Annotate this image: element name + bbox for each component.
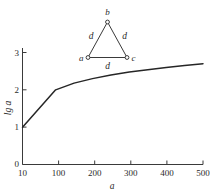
triangle-node-b xyxy=(106,20,110,24)
triangle-node-label-b: b xyxy=(105,7,110,17)
triangle-node-label-c: c xyxy=(132,53,136,63)
triangle-edge-label-ab: d xyxy=(89,31,94,41)
x-tick-label-300: 300 xyxy=(124,168,138,178)
y-tick-label-2: 2 xyxy=(15,85,20,95)
x-tick-label-400: 400 xyxy=(160,168,174,178)
x-tick-label-100: 100 xyxy=(52,168,66,178)
y-tick-label-3: 3 xyxy=(15,48,20,58)
figure-plot-with-triangle-inset: b a c d d d 3 2 1 0 10 100 200 300 400 5… xyxy=(0,0,215,193)
inset-triangle-diagram: b a c d d d xyxy=(79,7,136,71)
x-tick-label-10: 10 xyxy=(18,168,28,178)
triangle-node-c xyxy=(125,56,129,60)
y-tick-labels: 3 2 1 0 xyxy=(15,48,20,170)
triangle-edge-label-bc: d xyxy=(122,31,127,41)
triangle-node-label-a: a xyxy=(79,53,84,63)
data-curve-lg-a xyxy=(23,64,204,127)
triangle-edge-label-ac: d xyxy=(105,61,110,71)
plot-axes xyxy=(23,48,204,165)
x-axis-title: a xyxy=(110,181,115,191)
y-tick-label-1: 1 xyxy=(15,122,20,132)
y-axis-title: lg a xyxy=(3,100,13,115)
x-tick-label-200: 200 xyxy=(88,168,102,178)
triangle-node-a xyxy=(86,56,90,60)
x-tick-label-500: 500 xyxy=(196,168,210,178)
x-tick-labels: 10 100 200 300 400 500 xyxy=(18,168,210,178)
